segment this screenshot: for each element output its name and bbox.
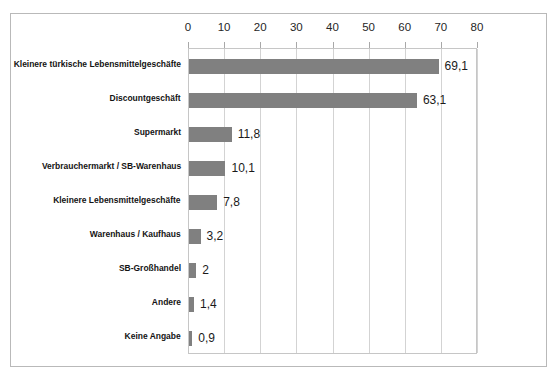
- bar[interactable]: [189, 93, 417, 108]
- bar[interactable]: [189, 127, 232, 142]
- category-label: Verbrauchermarkt / SB-Warenhaus: [42, 161, 181, 172]
- bar-value-label: 1,4: [200, 297, 217, 311]
- bar-value-label: 10,1: [231, 161, 254, 175]
- category-label: Supermarkt: [134, 127, 181, 138]
- category-label: Kleinere Lebensmittelgeschäfte: [54, 195, 181, 206]
- category-label: SB-Großhandel: [119, 263, 181, 274]
- bar-row: 69,1: [189, 49, 476, 83]
- bar[interactable]: [189, 263, 196, 278]
- category-label: Warenhaus / Kaufhaus: [90, 229, 181, 240]
- x-axis-tick-label: 30: [276, 21, 316, 33]
- x-axis-tick-label: 40: [313, 21, 353, 33]
- bar[interactable]: [189, 331, 192, 346]
- gridline: [477, 49, 478, 353]
- bar-row: 1,4: [189, 287, 476, 321]
- bar-value-label: 7,8: [223, 195, 240, 209]
- bar-value-label: 0,9: [198, 331, 215, 345]
- plot-area: 69,163,111,810,17,83,221,40,9: [188, 48, 477, 354]
- x-axis-tick-label: 20: [240, 21, 280, 33]
- x-axis-tick-label: 80: [457, 21, 497, 33]
- bar-series: 69,163,111,810,17,83,221,40,9: [189, 49, 476, 353]
- x-axis-tick-label: 50: [349, 21, 389, 33]
- bar-row: 11,8: [189, 117, 476, 151]
- bar-row: 3,2: [189, 219, 476, 253]
- bar[interactable]: [189, 195, 217, 210]
- bar-row: 7,8: [189, 185, 476, 219]
- bar[interactable]: [189, 161, 225, 176]
- x-axis-tick-label-row: 01020304050607080: [11, 14, 548, 48]
- bar-row: 2: [189, 253, 476, 287]
- bar-row: 0,9: [189, 321, 476, 355]
- bar-value-label: 63,1: [423, 93, 446, 107]
- bar-value-label: 3,2: [207, 229, 224, 243]
- x-axis-tick-label: 70: [421, 21, 461, 33]
- bar[interactable]: [189, 229, 201, 244]
- bar-value-label: 11,8: [238, 127, 260, 141]
- x-axis-tick-label: 60: [385, 21, 425, 33]
- bar[interactable]: [189, 59, 439, 74]
- category-axis-labels: Kleinere türkische Lebensmittelgeschäfte…: [11, 48, 185, 354]
- category-label: Keine Angabe: [125, 331, 181, 342]
- chart-frame: 01020304050607080 Kleinere türkische Leb…: [10, 13, 547, 367]
- bar-row: 10,1: [189, 151, 476, 185]
- bar-row: 63,1: [189, 83, 476, 117]
- category-label: Andere: [152, 297, 181, 308]
- bar[interactable]: [189, 297, 194, 312]
- x-axis-tick-label: 0: [168, 21, 208, 33]
- bar-value-label: 2: [202, 263, 209, 277]
- category-label: Kleinere türkische Lebensmittelgeschäfte: [14, 59, 181, 70]
- bar-value-label: 69,1: [445, 59, 468, 73]
- category-label: Discountgeschäft: [110, 93, 181, 104]
- x-axis-tick-label: 10: [204, 21, 244, 33]
- x-axis-tick-mark: [477, 42, 478, 48]
